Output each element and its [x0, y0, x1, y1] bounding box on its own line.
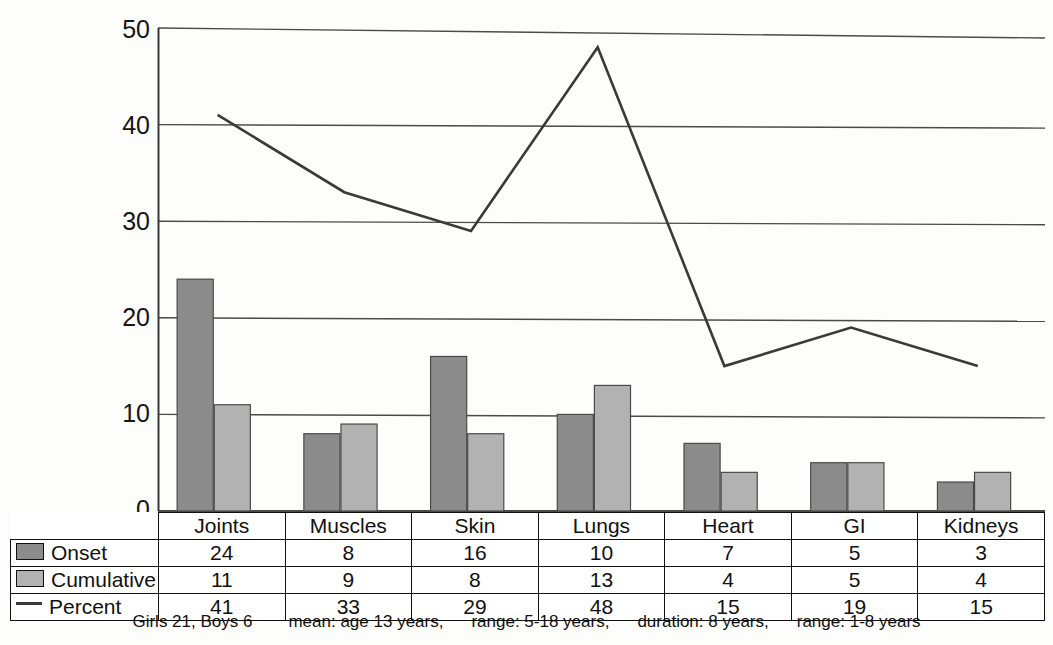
data-table: Joints Muscles Skin Lungs Heart GI Kidne… [10, 512, 1045, 621]
table-cell: 5 [791, 540, 918, 567]
table-cell: 8 [285, 540, 412, 567]
bar-onset [557, 414, 593, 511]
table-col-header: Skin [412, 513, 539, 540]
chart-canvas [0, 0, 1053, 520]
table-cell: 16 [412, 540, 539, 567]
table-cell: 7 [665, 540, 792, 567]
table-cell: 4 [918, 567, 1045, 594]
footnote-part-3: range: 5-18 years, [471, 612, 609, 632]
table-corner-cell [11, 513, 159, 540]
table-cell: 9 [285, 567, 412, 594]
table-cell: 3 [918, 540, 1045, 567]
table-cell: 8 [412, 567, 539, 594]
table-cell: 13 [538, 567, 665, 594]
bar-cumulative [848, 463, 884, 511]
table-cell: 5 [791, 567, 918, 594]
bar-onset [684, 443, 720, 511]
table-cell: 10 [538, 540, 665, 567]
table-row: Onset 24 8 16 10 7 5 3 [11, 540, 1045, 567]
gridline [158, 318, 1045, 322]
table-col-header: Joints [159, 513, 286, 540]
line-dash-swatch-icon [16, 602, 42, 605]
legend-item-cumulative: Cumulative [11, 567, 159, 594]
footnote-part-4: duration: 8 years, [637, 612, 768, 632]
bar-onset [177, 279, 213, 511]
table-col-header: Kidneys [918, 513, 1045, 540]
table-cell: 11 [159, 567, 286, 594]
bar-cumulative [594, 385, 630, 511]
legend-label: Onset [51, 542, 107, 565]
table-col-header: Heart [665, 513, 792, 540]
table-cell: 24 [159, 540, 286, 567]
bar-cumulative [341, 424, 377, 511]
footnote-part-1: Girls 21, Boys 6 [132, 612, 252, 632]
table-cell: 4 [665, 567, 792, 594]
bar-cumulative [468, 434, 504, 511]
bar-cumulative [721, 472, 757, 511]
bar-onset [811, 463, 847, 511]
light-square-swatch-icon [16, 570, 44, 587]
bar-onset [304, 434, 340, 511]
bar-onset [431, 356, 467, 511]
footnote-part-2: mean: age 13 years, [288, 612, 443, 632]
plot-area: 50 40 30 20 10 0 [0, 0, 1053, 520]
footnote-part-5: range: 1-8 years [797, 612, 921, 632]
dark-square-swatch-icon [16, 543, 44, 560]
bar-cumulative [214, 405, 250, 511]
legend-item-onset: Onset [11, 540, 159, 567]
table-col-header: Lungs [538, 513, 665, 540]
bar-onset [937, 482, 973, 511]
legend-label: Cumulative [51, 569, 156, 592]
table-header-row: Joints Muscles Skin Lungs Heart GI Kidne… [11, 513, 1045, 540]
table-col-header: GI [791, 513, 918, 540]
gridline [158, 28, 1045, 38]
gridline [158, 125, 1045, 129]
table-row: Cumulative 11 9 8 13 4 5 4 [11, 567, 1045, 594]
footnote: Girls 21, Boys 6mean: age 13 years,range… [0, 612, 1053, 632]
bar-cumulative [975, 472, 1011, 511]
table-col-header: Muscles [285, 513, 412, 540]
chart-figure: 50 40 30 20 10 0 Joints Muscles Skin Lun… [0, 0, 1053, 645]
gridline [158, 221, 1045, 225]
